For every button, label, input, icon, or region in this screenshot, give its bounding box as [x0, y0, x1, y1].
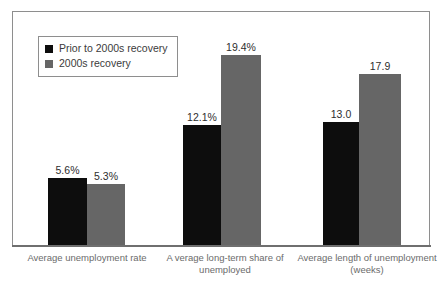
- bar-2000s-length-of-unemployment[interactable]: [359, 74, 401, 246]
- legend-swatch-black: [45, 45, 53, 53]
- value-label-2000s-group1: 5.3%: [87, 170, 125, 182]
- legend-item-2000s-recovery[interactable]: 2000s recovery: [45, 56, 168, 71]
- category-label-long-term-share-of-unemployed: A verage long-term share of unemployed: [152, 252, 298, 275]
- legend-label-prior-to-2000s-recovery: Prior to 2000s recovery: [59, 43, 168, 54]
- bar-prior-length-of-unemployment[interactable]: [323, 122, 359, 246]
- value-label-prior-group2: 12.1%: [179, 111, 225, 123]
- category-label-average-length-of-unemployment: Average length of unemployment (weeks): [292, 252, 442, 275]
- value-label-prior-group3: 13.0: [319, 108, 363, 120]
- chart-legend: Prior to 2000s recovery 2000s recovery: [38, 36, 178, 77]
- legend-label-2000s-recovery: 2000s recovery: [59, 58, 131, 69]
- legend-item-prior-to-2000s-recovery[interactable]: Prior to 2000s recovery: [45, 41, 168, 56]
- grouped-bar-chart: 5.6% 5.3% 12.1% 19.4% 13.0 17.9 Prior to…: [0, 0, 444, 288]
- bar-2000s-average-unemployment-rate[interactable]: [87, 184, 125, 246]
- category-label-average-unemployment-rate: Average unemployment rate: [18, 252, 156, 264]
- bar-2000s-long-term-share[interactable]: [221, 55, 261, 246]
- value-label-2000s-group2: 19.4%: [217, 41, 265, 53]
- plot-area: 5.6% 5.3% 12.1% 19.4% 13.0 17.9 Prior to…: [12, 11, 430, 247]
- value-label-prior-group1: 5.6%: [48, 164, 87, 176]
- value-label-2000s-group3: 17.9: [357, 60, 403, 72]
- legend-swatch-gray: [45, 60, 53, 68]
- bar-prior-average-unemployment-rate[interactable]: [48, 178, 87, 246]
- bar-prior-long-term-share[interactable]: [183, 125, 221, 246]
- baseline-axis: [12, 245, 431, 247]
